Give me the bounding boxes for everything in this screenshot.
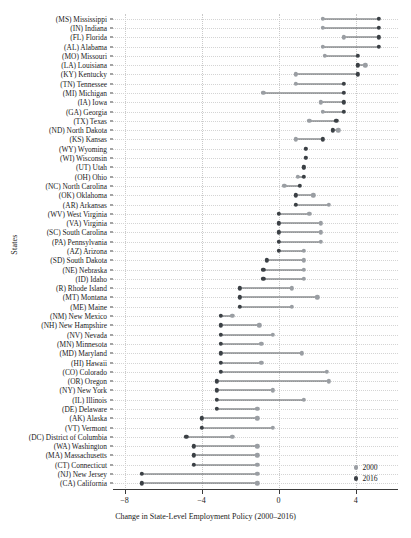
connector-line — [296, 83, 344, 84]
data-point-2000 — [271, 388, 275, 392]
y-axis-tick — [110, 399, 113, 400]
y-axis-tick-label: (NV) Nevada — [67, 330, 107, 339]
data-point-2000 — [271, 425, 275, 429]
y-axis-tick — [110, 446, 113, 447]
legend-swatch-2000 — [354, 465, 358, 469]
y-axis-tick — [110, 474, 113, 475]
y-axis-tick-label: (MA) Massachusetts — [46, 451, 107, 460]
data-point-2000 — [271, 332, 275, 336]
data-point-2016 — [377, 44, 381, 48]
data-point-2016 — [215, 407, 219, 411]
connector-line — [296, 139, 323, 140]
connector-line — [263, 278, 303, 279]
y-axis-tick — [110, 213, 113, 214]
data-point-2016 — [342, 81, 346, 85]
y-axis-tick-label: (NC) North Carolina — [45, 181, 107, 190]
connector-line — [186, 436, 232, 437]
data-point-2000 — [301, 397, 305, 401]
chart-row: (WI) Wisconsin — [113, 153, 398, 162]
y-axis-tick — [110, 418, 113, 419]
data-point-2016 — [219, 342, 223, 346]
data-point-2016 — [355, 54, 359, 58]
data-point-2016 — [219, 360, 223, 364]
chart-row: (NV) Nevada — [113, 330, 398, 339]
connector-line — [240, 288, 292, 289]
legend-label: 2000 — [362, 463, 377, 472]
y-axis-tick — [110, 27, 113, 28]
chart-row: (UT) Utah — [113, 163, 398, 172]
data-point-2000 — [326, 202, 330, 206]
y-axis-tick-label: (IL) Illinois — [72, 395, 107, 404]
data-point-2016 — [219, 314, 223, 318]
y-axis-tick-label: (MI) Michigan — [63, 88, 107, 97]
data-point-2016 — [294, 202, 298, 206]
connector-line — [217, 390, 273, 391]
chart-row: (ID) Idaho — [113, 274, 398, 283]
y-axis-tick-label: (AZ) Arizona — [67, 246, 107, 255]
y-axis-tick — [110, 269, 113, 270]
data-point-2000 — [255, 407, 259, 411]
data-point-2000 — [363, 63, 367, 67]
data-point-2016 — [238, 295, 242, 299]
data-point-2000 — [294, 72, 298, 76]
y-axis-tick-label: (IA) Iowa — [78, 98, 107, 107]
chart-row: (MI) Michigan — [113, 88, 398, 97]
data-point-2016 — [184, 435, 188, 439]
data-point-2000 — [259, 360, 263, 364]
data-point-2000 — [336, 128, 340, 132]
y-axis-tick-label: (OK) Oklahoma — [59, 191, 107, 200]
y-axis-tick — [110, 464, 113, 465]
chart-row: (KS) Kansas — [113, 135, 398, 144]
data-point-2016 — [355, 72, 359, 76]
connector-line — [240, 297, 317, 298]
connector-line — [263, 269, 303, 270]
chart-row: (CO) Colorado — [113, 367, 398, 376]
data-point-2000 — [290, 305, 294, 309]
data-point-2000 — [257, 323, 261, 327]
chart-row: (ME) Maine — [113, 302, 398, 311]
data-point-2016 — [199, 425, 203, 429]
data-point-2016 — [377, 16, 381, 20]
y-axis-tick-label: (CA) California — [60, 479, 107, 488]
data-point-2000 — [261, 91, 265, 95]
connector-line — [217, 408, 257, 409]
connector-line — [323, 46, 379, 47]
data-point-2000 — [230, 314, 234, 318]
chart-row: (MO) Missouri — [113, 51, 398, 60]
connector-line — [263, 92, 344, 93]
data-point-2000 — [315, 295, 319, 299]
connector-line — [240, 306, 292, 307]
data-point-2016 — [192, 463, 196, 467]
data-point-2000 — [326, 379, 330, 383]
y-axis-tick-label: (SC) South Carolina — [47, 228, 107, 237]
connector-line — [194, 446, 258, 447]
data-point-2016 — [219, 351, 223, 355]
chart-row: (NM) New Mexico — [113, 311, 398, 320]
y-axis-tick — [110, 390, 113, 391]
data-point-2000 — [342, 35, 346, 39]
y-axis-tick-label: (WA) Washington — [54, 442, 107, 451]
chart-row: (SC) South Carolina — [113, 228, 398, 237]
y-axis-tick — [110, 37, 113, 38]
y-axis-tick — [110, 288, 113, 289]
y-axis-tick — [110, 83, 113, 84]
data-point-2016 — [342, 91, 346, 95]
chart-row: (FL) Florida — [113, 33, 398, 42]
y-axis-tick-label: (CO) Colorado — [62, 367, 107, 376]
connector-line — [221, 371, 327, 372]
data-point-2016 — [276, 239, 280, 243]
data-point-2000 — [311, 193, 315, 197]
data-point-2016 — [192, 453, 196, 457]
y-axis-tick — [110, 381, 113, 382]
data-point-2016 — [303, 147, 307, 151]
x-axis-tick-label: 0 — [277, 496, 281, 505]
chart-row: (SD) South Dakota — [113, 256, 398, 265]
y-axis-tick — [110, 102, 113, 103]
y-axis-tick — [110, 120, 113, 121]
chart-row: (LA) Louisiana — [113, 60, 398, 69]
chart-row: (DE) Delaware — [113, 404, 398, 413]
chart-row: (AL) Alabama — [113, 42, 398, 51]
data-point-2016 — [199, 416, 203, 420]
data-point-2000 — [301, 277, 305, 281]
legend: 20002016 — [354, 462, 378, 484]
